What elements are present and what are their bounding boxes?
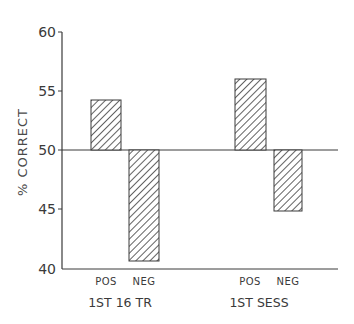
bar-1st16tr-neg	[129, 150, 159, 261]
bar-1stsess-neg	[274, 150, 302, 211]
category-label-pos: POS	[95, 276, 117, 287]
category-label-pos: POS	[239, 276, 261, 287]
y-tick-label: 50	[38, 142, 56, 158]
bar-1st16tr-pos	[91, 100, 121, 150]
bar-chart: 60 55 50 45 40 % CORRECT POS NEG POS NEG…	[0, 0, 354, 324]
category-label-neg: NEG	[276, 276, 299, 287]
group-label-1st-sess: 1ST SESS	[229, 295, 288, 310]
y-tick-label: 40	[38, 261, 56, 277]
category-label-neg: NEG	[132, 276, 155, 287]
y-tick-label: 55	[38, 83, 56, 99]
group-label-1st-16-tr: 1ST 16 TR	[88, 295, 152, 310]
y-tick-label: 45	[38, 201, 56, 217]
y-axis-title: % CORRECT	[15, 108, 30, 196]
bar-1stsess-pos	[235, 79, 266, 150]
y-tick-label: 60	[38, 24, 56, 40]
